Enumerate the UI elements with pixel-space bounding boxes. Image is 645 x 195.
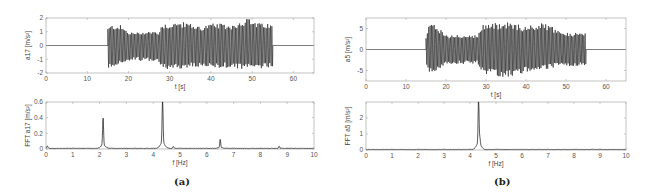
panel-label-a: (a) bbox=[174, 176, 190, 187]
x-tick-label: 9 bbox=[598, 152, 602, 159]
x-tick-label: 10 bbox=[84, 75, 92, 82]
x-tick-label: 3 bbox=[442, 152, 446, 159]
y-axis-label: a17 [m/s²] bbox=[24, 31, 32, 60]
y-tick-label: 5 bbox=[359, 25, 363, 32]
fft-plot-a17: 01234567891000.20.40.6f [Hz]FFT a17 [m/s… bbox=[24, 98, 318, 167]
x-tick-label: 5 bbox=[178, 151, 182, 158]
panel-label-b: (b) bbox=[494, 176, 510, 187]
x-axis-label: f [Hz] bbox=[488, 160, 503, 168]
x-tick-label: 40 bbox=[522, 83, 530, 90]
y-tick-label: 0 bbox=[359, 46, 363, 53]
x-tick-label: 10 bbox=[402, 83, 410, 90]
y-tick-label: -5 bbox=[357, 67, 363, 74]
figure-canvas: 0102030405060-2-1012t [s]a17 [m/s²] 0123… bbox=[0, 0, 645, 195]
x-tick-label: 0 bbox=[364, 83, 368, 90]
x-tick-label: 7 bbox=[232, 151, 236, 158]
x-tick-label: 20 bbox=[442, 83, 450, 90]
x-tick-label: 1 bbox=[390, 152, 394, 159]
axes-box bbox=[46, 102, 314, 149]
x-tick-label: 10 bbox=[622, 152, 630, 159]
y-tick-label: -1 bbox=[37, 56, 43, 63]
x-tick-label: 20 bbox=[125, 75, 133, 82]
y-tick-label: 1 bbox=[39, 28, 43, 35]
y-axis-label: a5 [m/s²] bbox=[344, 37, 352, 62]
y-tick-label: 2 bbox=[39, 14, 43, 21]
x-tick-label: 2 bbox=[98, 151, 102, 158]
x-tick-label: 4 bbox=[468, 152, 472, 159]
x-tick-label: 50 bbox=[249, 75, 257, 82]
x-axis-label: t [s] bbox=[175, 83, 186, 91]
y-tick-label: 0 bbox=[39, 42, 43, 49]
x-tick-label: 50 bbox=[562, 83, 570, 90]
y-tick-label: 1 bbox=[359, 130, 363, 137]
x-tick-label: 40 bbox=[207, 75, 215, 82]
x-tick-label: 8 bbox=[259, 151, 263, 158]
x-axis-label: f [Hz] bbox=[172, 159, 187, 167]
time-signal-plot-a17: 0102030405060-2-1012t [s]a17 [m/s²] bbox=[24, 14, 314, 91]
x-tick-label: 8 bbox=[572, 152, 576, 159]
x-tick-label: 60 bbox=[602, 83, 610, 90]
y-tick-label: 0.4 bbox=[34, 114, 43, 121]
time-signal-plot-a5: 0102030405060-505t [s]a5 [m/s²] bbox=[344, 18, 626, 99]
x-tick-label: 60 bbox=[290, 75, 298, 82]
x-tick-label: 0 bbox=[44, 75, 48, 82]
y-tick-label: -2 bbox=[37, 69, 43, 76]
y-axis-label: FFT a5 [m/s²] bbox=[344, 106, 352, 145]
y-axis-label: FFT a17 [m/s²] bbox=[24, 104, 32, 147]
x-tick-label: 0 bbox=[44, 151, 48, 158]
y-tick-label: 0.2 bbox=[34, 130, 43, 137]
y-tick-label: 2 bbox=[359, 114, 363, 121]
x-tick-label: 4 bbox=[151, 151, 155, 158]
x-axis-label: t [s] bbox=[491, 91, 502, 99]
x-tick-label: 6 bbox=[205, 151, 209, 158]
x-tick-label: 30 bbox=[166, 75, 174, 82]
x-tick-label: 30 bbox=[482, 83, 490, 90]
y-tick-label: 0.6 bbox=[34, 98, 43, 105]
x-tick-label: 9 bbox=[285, 151, 289, 158]
x-tick-label: 5 bbox=[494, 152, 498, 159]
axes-box bbox=[366, 102, 626, 150]
y-tick-label: 0 bbox=[39, 145, 43, 152]
x-tick-label: 1 bbox=[71, 151, 75, 158]
x-tick-label: 3 bbox=[125, 151, 129, 158]
y-tick-label: 0 bbox=[359, 146, 363, 153]
x-tick-label: 2 bbox=[416, 152, 420, 159]
x-tick-label: 10 bbox=[310, 151, 318, 158]
x-tick-label: 0 bbox=[364, 152, 368, 159]
fft-plot-a5: 012345678910012f [Hz]FFT a5 [m/s²] bbox=[344, 102, 630, 168]
x-tick-label: 6 bbox=[520, 152, 524, 159]
x-tick-label: 7 bbox=[546, 152, 550, 159]
